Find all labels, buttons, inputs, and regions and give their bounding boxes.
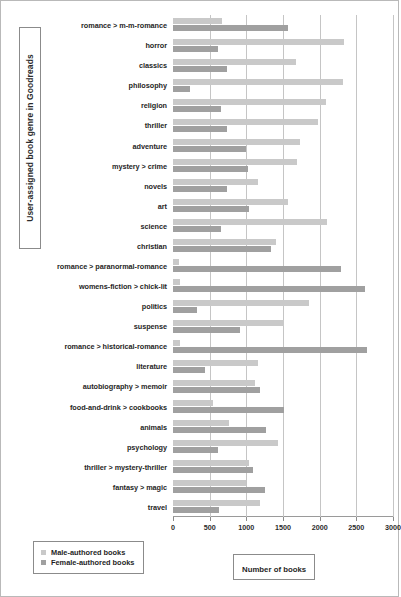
bar-male-authored [173, 99, 326, 105]
bar-group [173, 477, 393, 497]
bar-male-authored [173, 320, 284, 326]
bar-group [173, 75, 393, 95]
bar-female-authored [173, 66, 227, 72]
bar-group [173, 437, 393, 457]
bar-female-authored [173, 206, 249, 212]
bar-group [173, 55, 393, 75]
category-label: religion [141, 101, 167, 110]
bar-female-authored [173, 427, 266, 433]
y-axis-title-box: User-assigned book genre in Goodreads [19, 27, 41, 249]
bar-female-authored [173, 146, 246, 152]
gridline [393, 15, 394, 517]
category-label: politics [142, 302, 167, 311]
bar-group [173, 15, 393, 35]
bar-female-authored [173, 266, 341, 272]
bar-male-authored [173, 179, 258, 185]
bar-group [173, 95, 393, 115]
category-label: christian [137, 241, 167, 250]
bar-female-authored [173, 166, 248, 172]
bar-group [173, 296, 393, 316]
bar-female-authored [173, 246, 271, 252]
legend-item: Female-authored books [41, 558, 134, 567]
legend-label: Female-authored books [51, 558, 134, 567]
x-axis-tick-label: 3000 [385, 523, 401, 532]
category-label: womens-fiction > chick-lit [79, 282, 167, 291]
x-axis-title-box: Number of books [233, 554, 315, 580]
bar-group [173, 176, 393, 196]
bar-male-authored [173, 500, 260, 506]
bar-female-authored [173, 126, 227, 132]
bar-male-authored [173, 18, 222, 24]
bar-group [173, 417, 393, 437]
bar-female-authored [173, 86, 190, 92]
bar-group [173, 316, 393, 336]
bar-male-authored [173, 340, 180, 346]
legend-swatch-icon [41, 560, 46, 565]
bar-male-authored [173, 380, 255, 386]
bar-group [173, 457, 393, 477]
bar-male-authored [173, 59, 296, 65]
x-axis-tick [210, 517, 211, 521]
category-label: horror [145, 41, 167, 50]
x-axis-title: Number of books [242, 565, 306, 574]
category-label: travel [148, 502, 167, 511]
category-labels: romance > m-m-romancehorrorclassicsphilo… [48, 15, 172, 517]
bar-female-authored [173, 186, 227, 192]
bar-male-authored [173, 39, 344, 45]
x-axis-tick-label: 2500 [348, 523, 364, 532]
x-axis-tick [173, 517, 174, 521]
legend: Male-authored booksFemale-authored books [33, 541, 144, 574]
category-label: philosophy [129, 81, 167, 90]
bar-group [173, 256, 393, 276]
category-label: thriller > mystery-thriller [84, 462, 167, 471]
category-label: thriller [145, 121, 167, 130]
legend-swatch-icon [41, 550, 46, 555]
category-label: novels [144, 181, 167, 190]
category-label: animals [140, 422, 167, 431]
bar-group [173, 356, 393, 376]
x-axis-tick [246, 517, 247, 521]
bar-male-authored [173, 219, 327, 225]
x-axis-tick [356, 517, 357, 521]
bar-female-authored [173, 347, 367, 353]
category-label: food-and-drink > cookbooks [70, 402, 167, 411]
bar-female-authored [173, 507, 219, 513]
bar-male-authored [173, 420, 229, 426]
bar-female-authored [173, 367, 205, 373]
legend-label: Male-authored books [51, 548, 125, 557]
bar-male-authored [173, 259, 179, 265]
bar-female-authored [173, 447, 218, 453]
x-axis-tick-label: 1000 [238, 523, 254, 532]
bar-male-authored [173, 480, 246, 486]
bar-group [173, 196, 393, 216]
bar-female-authored [173, 286, 365, 292]
bar-group [173, 236, 393, 256]
x-axis-tick [320, 517, 321, 521]
x-axis-tick-label: 500 [204, 523, 216, 532]
bar-male-authored [173, 360, 258, 366]
bar-female-authored [173, 487, 265, 493]
bar-group [173, 216, 393, 236]
bar-group [173, 397, 393, 417]
bar-group [173, 276, 393, 296]
bar-male-authored [173, 199, 288, 205]
bar-female-authored [173, 387, 260, 393]
category-label: classics [139, 61, 167, 70]
category-label: fantasy > magic [113, 482, 167, 491]
x-axis: 050010001500200025003000 [173, 517, 393, 537]
bar-group [173, 115, 393, 135]
x-axis-tick [393, 517, 394, 521]
x-axis-tick [283, 517, 284, 521]
bar-male-authored [173, 119, 318, 125]
bar-male-authored [173, 139, 300, 145]
bar-group [173, 135, 393, 155]
x-axis-tick-label: 1500 [275, 523, 291, 532]
bar-male-authored [173, 239, 276, 245]
category-label: psychology [127, 442, 167, 451]
category-label: art [158, 201, 167, 210]
bar-female-authored [173, 25, 288, 31]
bars-region [173, 15, 393, 517]
category-label: literature [136, 362, 167, 371]
bar-male-authored [173, 300, 309, 306]
bar-female-authored [173, 327, 240, 333]
